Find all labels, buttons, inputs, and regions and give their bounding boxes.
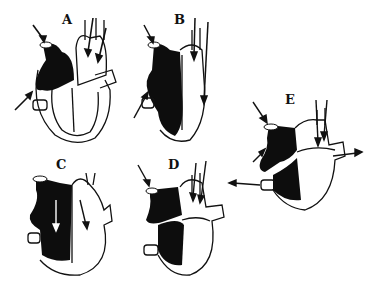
panel-a: A [0, 0, 130, 150]
heart-d-illustration [130, 145, 240, 285]
heart-diagram-figure: A B [0, 0, 378, 286]
heart-e-illustration [225, 80, 378, 220]
panel-e: E [225, 80, 378, 220]
panel-b: B [130, 0, 230, 150]
heart-b-illustration [130, 0, 230, 150]
heart-c-illustration [0, 145, 120, 285]
panel-c: C [0, 145, 120, 285]
panel-d: D [130, 145, 240, 285]
heart-a-illustration [0, 0, 130, 150]
